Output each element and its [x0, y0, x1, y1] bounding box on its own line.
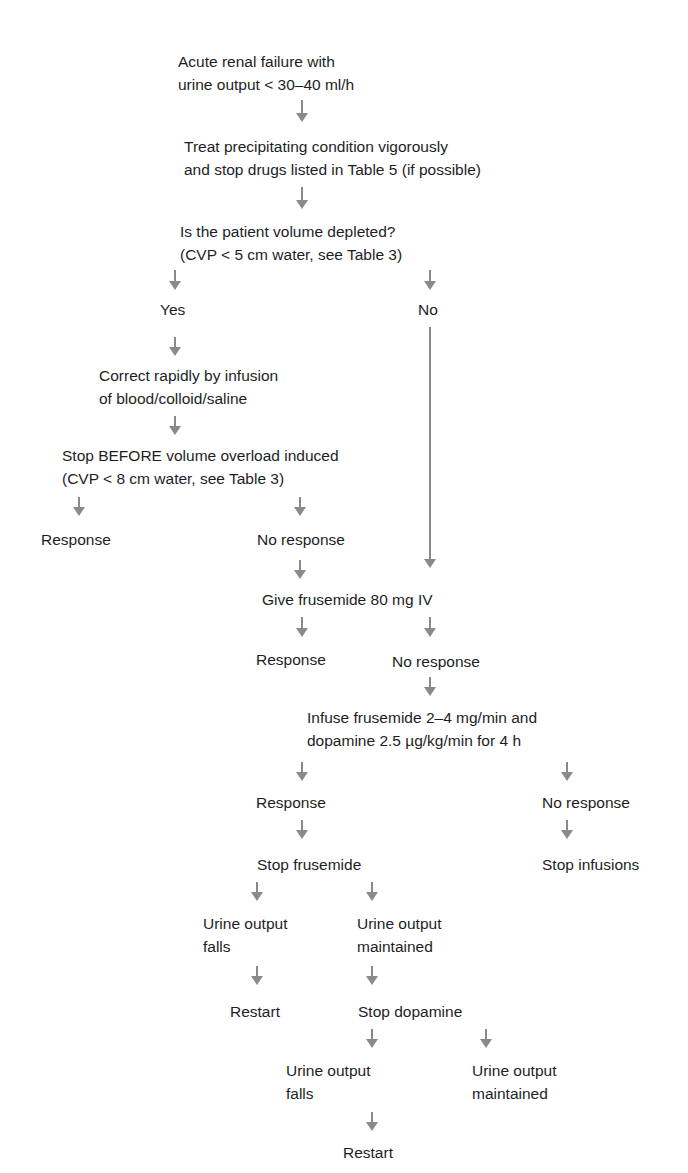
arrow-down-icon: [424, 270, 436, 290]
node-no: No: [418, 298, 438, 321]
arrow-down-icon: [296, 187, 308, 209]
node-text: falls: [203, 935, 287, 958]
node-urine-maintained-1: Urine output maintained: [357, 912, 441, 958]
node-text: Stop BEFORE volume overload induced: [62, 444, 339, 467]
node-stop-before: Stop BEFORE volume overload induced (CVP…: [62, 444, 339, 490]
node-text: Give frusemide 80 mg IV: [262, 588, 433, 611]
arrow-down-icon: [296, 100, 308, 122]
arrow-down-icon: [424, 677, 436, 696]
node-text: No response: [542, 791, 630, 814]
node-text: Stop frusemide: [257, 853, 361, 876]
arrow-down-icon: [251, 882, 263, 901]
node-give-frusemide: Give frusemide 80 mg IV: [262, 588, 433, 611]
node-text: Urine output: [203, 912, 287, 935]
long-arrow-down-icon: [424, 327, 436, 568]
arrow-down-icon: [169, 416, 181, 435]
node-text: Is the patient volume depleted?: [180, 220, 402, 243]
node-text: Response: [256, 648, 326, 671]
arrow-down-icon: [294, 497, 306, 516]
arrow-down-icon: [480, 1029, 492, 1048]
node-text: falls: [286, 1082, 370, 1105]
node-text: Urine output: [472, 1059, 556, 1082]
node-text: Response: [41, 528, 111, 551]
arrow-down-icon: [366, 1029, 378, 1048]
node-text: of blood/colloid/saline: [99, 387, 278, 410]
arrow-down-icon: [251, 966, 263, 985]
node-text: No: [418, 298, 438, 321]
arrow-down-icon: [366, 1112, 378, 1131]
node-text: urine output < 30–40 ml/h: [178, 73, 354, 96]
node-text: maintained: [472, 1082, 556, 1105]
node-no-response-1: No response: [257, 528, 345, 551]
node-no-response-2: No response: [392, 650, 480, 673]
node-text: Urine output: [357, 912, 441, 935]
node-text: Acute renal failure with: [178, 50, 354, 73]
node-restart-1: Restart: [230, 1000, 280, 1023]
node-text: Response: [256, 791, 326, 814]
node-response-2: Response: [256, 648, 326, 671]
node-yes: Yes: [160, 298, 185, 321]
node-urine-falls-2: Urine output falls: [286, 1059, 370, 1105]
node-text: Yes: [160, 298, 185, 321]
arrow-down-icon: [73, 497, 85, 516]
arrow-down-icon: [366, 966, 378, 985]
node-text: Treat precipitating condition vigorously: [184, 135, 481, 158]
node-no-response-3: No response: [542, 791, 630, 814]
node-volume-question: Is the patient volume depleted? (CVP < 5…: [180, 220, 402, 266]
node-text: No response: [392, 650, 480, 673]
arrow-down-icon: [296, 617, 308, 637]
node-text: Restart: [230, 1000, 280, 1023]
node-text: Stop infusions: [542, 853, 639, 876]
node-restart-2: Restart: [343, 1141, 393, 1164]
node-text: dopamine 2.5 µg/kg/min for 4 h: [307, 729, 537, 752]
node-text: No response: [257, 528, 345, 551]
node-text: Infuse frusemide 2–4 mg/min and: [307, 706, 537, 729]
node-text: Urine output: [286, 1059, 370, 1082]
node-text: Correct rapidly by infusion: [99, 364, 278, 387]
arrow-down-icon: [296, 762, 308, 781]
node-urine-maintained-2: Urine output maintained: [472, 1059, 556, 1105]
node-infuse: Infuse frusemide 2–4 mg/min and dopamine…: [307, 706, 537, 752]
node-text: (CVP < 5 cm water, see Table 3): [180, 243, 402, 266]
node-start: Acute renal failure with urine output < …: [178, 50, 354, 96]
node-treat: Treat precipitating condition vigorously…: [184, 135, 481, 181]
arrow-down-icon: [294, 560, 306, 579]
node-response-3: Response: [256, 791, 326, 814]
node-text: Restart: [343, 1141, 393, 1164]
arrow-down-icon: [169, 270, 181, 290]
arrow-down-icon: [296, 820, 308, 839]
arrow-down-icon: [424, 617, 436, 637]
node-urine-falls-1: Urine output falls: [203, 912, 287, 958]
node-response-1: Response: [41, 528, 111, 551]
arrow-down-icon: [169, 337, 181, 356]
node-stop-frusemide: Stop frusemide: [257, 853, 361, 876]
node-stop-infusions: Stop infusions: [542, 853, 639, 876]
arrow-down-icon: [561, 762, 573, 781]
arrow-down-icon: [561, 820, 573, 839]
node-correct: Correct rapidly by infusion of blood/col…: [99, 364, 278, 410]
node-text: maintained: [357, 935, 441, 958]
node-text: Stop dopamine: [358, 1000, 462, 1023]
node-text: (CVP < 8 cm water, see Table 3): [62, 467, 339, 490]
arrow-down-icon: [366, 882, 378, 901]
node-text: and stop drugs listed in Table 5 (if pos…: [184, 158, 481, 181]
node-stop-dopamine: Stop dopamine: [358, 1000, 462, 1023]
